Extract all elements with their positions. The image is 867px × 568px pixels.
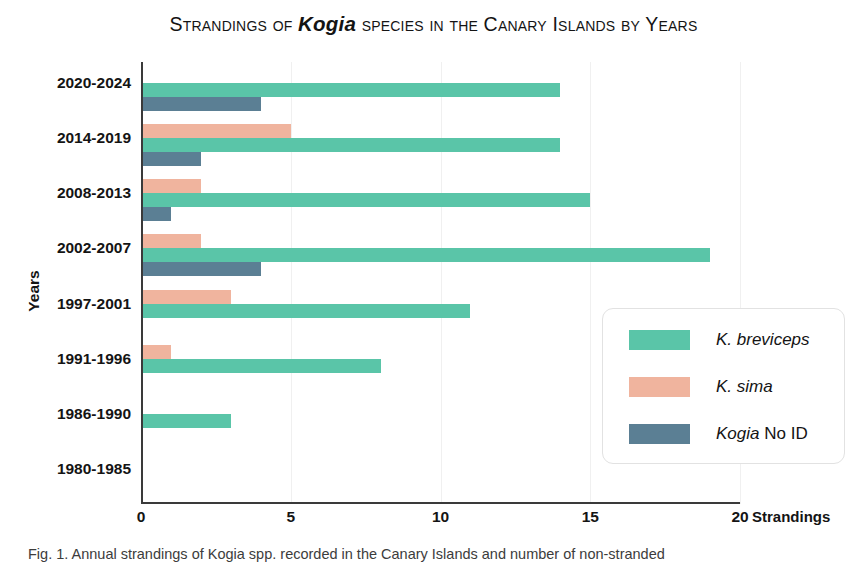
legend-item-kogia-no-id[interactable]: Kogia No ID xyxy=(629,421,808,447)
bar-group xyxy=(141,173,740,228)
bar-group xyxy=(141,117,740,172)
x-axis-tick-labels: 05101520 xyxy=(141,508,740,532)
legend-label-k-sima: K. sima xyxy=(716,377,773,397)
figure-caption: Fig. 1. Annual strandings of Kogia spp. … xyxy=(28,545,848,568)
bar xyxy=(141,83,560,97)
bar xyxy=(141,97,261,111)
bar-group xyxy=(141,62,740,117)
bar xyxy=(141,179,201,193)
y-axis-tick-label: 1980-1985 xyxy=(11,460,131,478)
bar xyxy=(141,234,201,248)
legend: K. breviceps K. sima Kogia No ID xyxy=(602,308,845,464)
x-axis-title: Strandings xyxy=(752,508,830,525)
y-axis-tick-label: 2014-2019 xyxy=(11,129,131,147)
x-axis-line xyxy=(141,502,740,504)
chart-title-prefix: Strandings of xyxy=(170,13,299,35)
page-title: Strandings of Kogia species in the Canar… xyxy=(0,12,867,36)
y-axis-title: Years xyxy=(25,251,43,331)
y-axis-tick-label: 1991-1996 xyxy=(11,350,131,368)
y-axis-tick-label: 2008-2013 xyxy=(11,184,131,202)
legend-swatch-k-breviceps xyxy=(629,330,690,350)
bar-group xyxy=(141,228,740,283)
bar xyxy=(141,138,560,152)
y-axis-tick-label: 1986-1990 xyxy=(11,405,131,423)
x-axis-tick-label: 5 xyxy=(286,508,295,526)
bar xyxy=(141,207,171,221)
y-axis-tick-labels: 2020-20242014-20192008-20132002-20071997… xyxy=(0,62,131,504)
bar xyxy=(141,248,710,262)
bar xyxy=(141,414,231,428)
bar xyxy=(141,193,590,207)
legend-swatch-k-sima xyxy=(629,377,690,397)
x-axis-tick-label: 10 xyxy=(432,508,449,526)
bar xyxy=(141,262,261,276)
chart-title-genus: Kogia xyxy=(298,12,356,35)
y-axis-line xyxy=(141,62,143,504)
chart-title-suffix: species in the Canary Islands by Years xyxy=(356,13,697,35)
legend-label-kogia-no-id: Kogia No ID xyxy=(716,424,808,444)
legend-label-k-breviceps: K. breviceps xyxy=(716,330,810,350)
legend-item-k-breviceps[interactable]: K. breviceps xyxy=(629,327,810,353)
bar xyxy=(141,152,201,166)
bar xyxy=(141,345,171,359)
x-axis-tick-label: 0 xyxy=(137,508,146,526)
legend-item-k-sima[interactable]: K. sima xyxy=(629,374,773,400)
bar xyxy=(141,124,291,138)
y-axis-tick-label: 2020-2024 xyxy=(11,74,131,92)
bar xyxy=(141,304,470,318)
bar xyxy=(141,359,381,373)
legend-swatch-kogia-no-id xyxy=(629,424,690,444)
bar xyxy=(141,290,231,304)
x-axis-tick-label: 20 xyxy=(731,508,748,526)
x-axis-tick-label: 15 xyxy=(582,508,599,526)
